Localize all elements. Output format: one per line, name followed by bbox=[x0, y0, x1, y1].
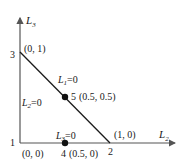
vertex-1-id: 1 bbox=[10, 137, 15, 148]
constraint-l1-label: L1=0 bbox=[57, 74, 78, 87]
point-5 bbox=[62, 94, 68, 100]
x-axis-label: L2 bbox=[158, 128, 169, 143]
vertex-2-id: 2 bbox=[108, 146, 113, 157]
vertex-1-coord: (0, 0) bbox=[22, 148, 44, 160]
vertex-4-id: 4 bbox=[61, 148, 66, 159]
vertex-3-id: 3 bbox=[10, 49, 15, 60]
constraint-l2-label: L2=0 bbox=[21, 97, 42, 110]
vertex-5-id: 5 bbox=[71, 91, 76, 102]
y-axis-label: L3 bbox=[25, 14, 36, 29]
vertex-3-coord: (0, 1) bbox=[24, 43, 46, 55]
simplex-diagram: L3 L2 3 (0, 1) 1 (0, 0) 4 (0.5, 0) 2 (1,… bbox=[0, 0, 182, 164]
vertex-5-coord: (0.5, 0.5) bbox=[79, 91, 116, 103]
vertex-4-coord: (0.5, 0) bbox=[69, 148, 98, 160]
vertex-2-coord: (1, 0) bbox=[114, 129, 136, 141]
